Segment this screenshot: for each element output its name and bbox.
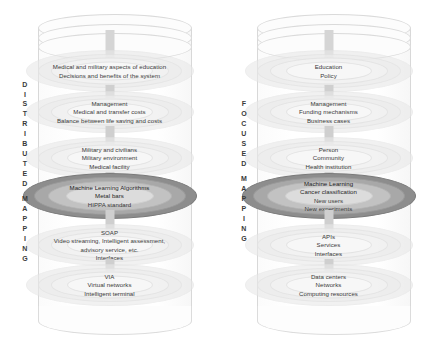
caption-letter: U	[22, 149, 27, 159]
caption-letter: D	[22, 179, 27, 189]
caption-letter: I	[24, 90, 26, 100]
caption-letter: E	[23, 169, 28, 179]
disc-ring	[286, 149, 372, 168]
disc-ring	[67, 103, 153, 122]
caption-letter: T	[23, 159, 27, 169]
caption-letter: S	[23, 99, 28, 109]
disc-ring	[286, 62, 372, 81]
caption-letter: U	[241, 129, 246, 139]
caption-letter: C	[241, 119, 246, 129]
caption-letter: D	[22, 80, 27, 90]
caption-letter: B	[22, 139, 27, 149]
caption-letter: I	[243, 214, 245, 224]
caption-letter: E	[242, 149, 247, 159]
caption-letter: I	[24, 234, 26, 244]
disc-ring	[67, 149, 153, 168]
caption-letter: O	[241, 109, 247, 119]
disc-ring	[285, 186, 373, 206]
caption-letter: M	[241, 174, 247, 184]
disc-ring	[67, 236, 153, 255]
caption-focused-mapping: FOCUSEDMAPPING	[231, 0, 257, 343]
disc-ring	[286, 103, 372, 122]
disc-ring	[286, 276, 372, 295]
caption-letter: I	[24, 129, 26, 139]
diagram-canvas: Medical and military aspects of educatio…	[0, 0, 438, 343]
caption-letter: F	[242, 99, 246, 109]
caption-letter: N	[241, 224, 246, 234]
disc-ring	[67, 276, 153, 295]
caption-letter: D	[241, 159, 246, 169]
caption-letter: T	[23, 109, 27, 119]
caption-letter: R	[22, 119, 27, 129]
caption-letter: G	[241, 234, 247, 244]
caption-letter: P	[242, 194, 247, 204]
caption-letter: G	[22, 254, 28, 264]
disc-ring	[67, 62, 153, 81]
caption-letter: A	[22, 204, 27, 214]
disc-ring	[286, 236, 372, 255]
caption-letter: P	[23, 224, 28, 234]
caption-letter: S	[242, 139, 247, 149]
caption-letter: A	[241, 184, 246, 194]
caption-distributed-mapping: DISTRIBUTEDMAPPING	[12, 0, 38, 343]
caption-letter: P	[242, 204, 247, 214]
disc-ring	[66, 186, 154, 206]
caption-letter: N	[22, 244, 27, 254]
caption-letter: M	[22, 194, 28, 204]
caption-letter: P	[23, 214, 28, 224]
